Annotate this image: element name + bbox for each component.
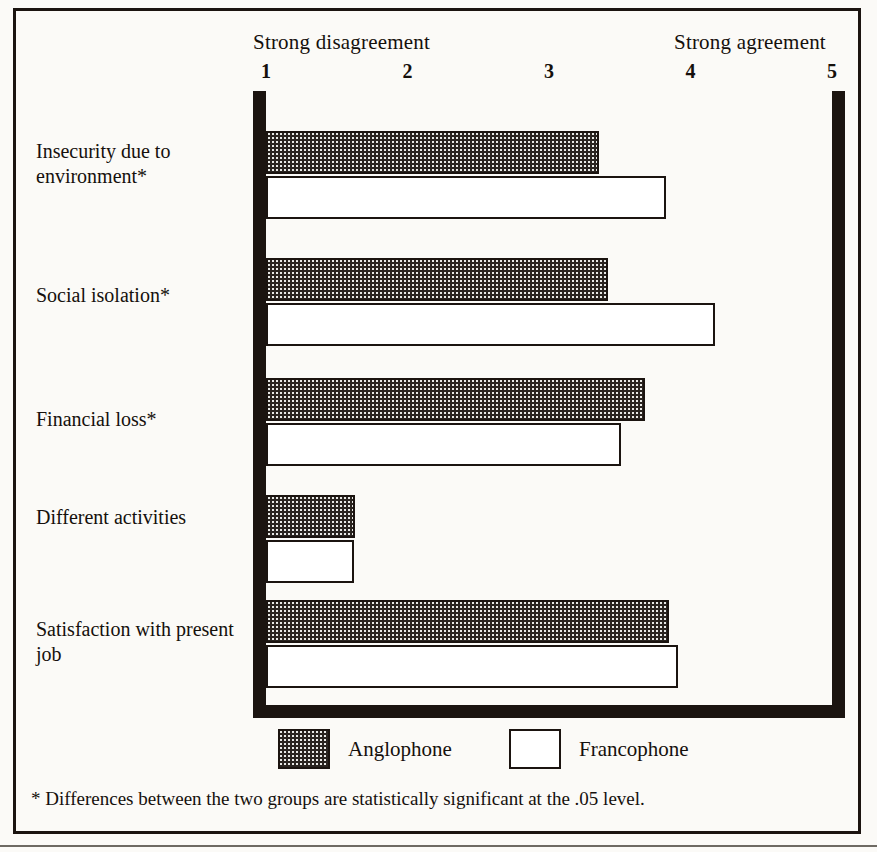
legend-item-anglophone: Anglophone [278, 729, 452, 769]
axis-tick-4: 4 [686, 60, 696, 83]
legend-swatch-anglophone [278, 729, 330, 769]
category-label-4: Different activities [36, 505, 246, 530]
category-label-5: Satisfaction with present job [36, 617, 246, 667]
bar-francophone-2 [266, 303, 715, 346]
bar-anglophone-5 [266, 600, 669, 643]
plot-area [266, 113, 832, 705]
bar-francophone-5 [266, 645, 678, 688]
category-label-3: Financial loss* [36, 407, 246, 432]
legend: Anglophone Francophone [253, 729, 853, 773]
footnote: * Differences between the two groups are… [31, 788, 645, 810]
legend-item-francophone: Francophone [509, 729, 689, 769]
bar-anglophone-2 [266, 258, 608, 301]
category-label-2: Social isolation* [36, 283, 246, 308]
category-label-1: Insecurity due to environment* [36, 139, 246, 189]
legend-label-francophone: Francophone [579, 737, 689, 762]
bar-francophone-3 [266, 423, 621, 466]
legend-label-anglophone: Anglophone [348, 737, 452, 762]
chart-figure: Strong disagreement Strong agreement 123… [0, 0, 877, 852]
bar-francophone-4 [266, 540, 354, 583]
legend-swatch-francophone [509, 729, 561, 769]
page-rule [0, 845, 877, 847]
axis-tick-3: 3 [544, 60, 554, 83]
axis-label-strong-agreement: Strong agreement [674, 30, 826, 55]
bar-francophone-1 [266, 176, 666, 219]
bar-anglophone-1 [266, 131, 599, 174]
axis-tick-5: 5 [827, 60, 837, 83]
bar-anglophone-3 [266, 378, 645, 421]
axis-tick-2: 2 [403, 60, 413, 83]
axis-tick-1: 1 [261, 60, 271, 83]
axis-label-strong-disagreement: Strong disagreement [253, 30, 430, 55]
bar-anglophone-4 [266, 495, 355, 538]
